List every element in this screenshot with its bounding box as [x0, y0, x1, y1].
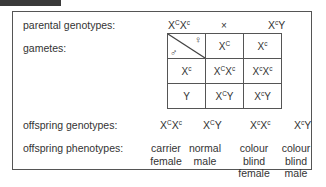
gametes-label: gametes:	[23, 42, 66, 54]
male-symbol-icon: ♂	[170, 47, 178, 58]
offspring-genotype-2: XCY	[203, 119, 222, 131]
offspring-phenotypes-label: offspring phenotypes:	[23, 142, 123, 154]
offspring-phenotype-3: colourblindfemale	[234, 142, 274, 180]
male-gamete-1: Xc	[168, 59, 206, 84]
punnett-cell: XCY	[206, 84, 244, 109]
parental-genotypes-label: parental genotypes:	[23, 19, 115, 31]
offspring-phenotype-4: colourblindmale	[276, 142, 316, 180]
punnett-corner: ♀ ♂	[168, 34, 206, 59]
punnett-square: ♀ ♂ XC Xc Xc XCXc XcXc Y XCY XcY	[167, 33, 282, 109]
punnett-cell: XCXc	[206, 59, 244, 84]
mother-genotype: XCXc	[168, 19, 190, 31]
header-tab	[0, 0, 61, 6]
offspring-phenotype-1: carrierfemale	[146, 142, 186, 167]
female-symbol-icon: ♀	[195, 34, 203, 45]
offspring-genotypes-label: offspring genotypes:	[23, 119, 117, 131]
punnett-cell: XcXc	[244, 59, 282, 84]
female-gamete-1: XC	[206, 34, 244, 59]
offspring-genotype-3: XcXc	[250, 119, 271, 131]
female-gamete-2: Xc	[244, 34, 282, 59]
offspring-genotype-4: XcY	[294, 119, 311, 131]
male-gamete-2: Y	[168, 84, 206, 109]
offspring-genotype-1: XCXc	[160, 119, 182, 131]
father-genotype: XcY	[268, 19, 285, 31]
cross-symbol: ×	[221, 20, 227, 31]
punnett-cell: XcY	[244, 84, 282, 109]
offspring-phenotype-2: normalmale	[185, 142, 225, 167]
